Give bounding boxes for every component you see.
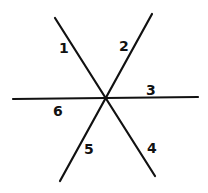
angle-label-6: 6 [53,104,63,118]
angle-label-1: 1 [59,41,69,55]
line-c [13,97,198,99]
angle-diagram [0,0,208,193]
angle-label-4: 4 [147,141,157,155]
angle-label-2: 2 [119,39,129,53]
angle-label-5: 5 [84,142,94,156]
angle-label-3: 3 [146,83,156,97]
